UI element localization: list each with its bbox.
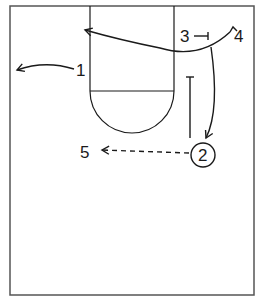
player-2-label: 2: [198, 146, 207, 165]
player-5-label: 5: [80, 143, 89, 162]
player-4-label: 4: [234, 27, 243, 46]
play-diagram: 1 4 3 2 5: [0, 0, 260, 299]
player-3-label: 3: [180, 27, 189, 46]
player-1-label: 1: [76, 61, 85, 80]
